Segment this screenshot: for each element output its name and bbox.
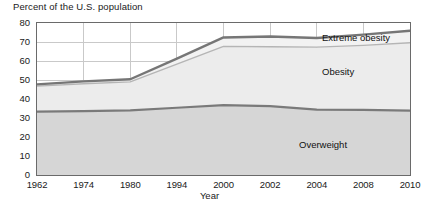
x-axis-tick-2010: 2010 xyxy=(388,179,425,190)
x-axis-tick-2004: 2004 xyxy=(295,179,339,190)
y-axis-tick-80: 80 xyxy=(0,18,30,28)
y-axis-tick-30: 30 xyxy=(0,113,30,123)
x-axis-tick-1962: 1962 xyxy=(15,179,59,190)
y-axis-tick-10: 10 xyxy=(0,151,30,161)
x-axis-tick-2000: 2000 xyxy=(202,179,246,190)
page-title: Percent of the U.S. population xyxy=(13,1,143,12)
series-area-fills xyxy=(37,31,410,175)
band-label-obesity: Obesity xyxy=(322,66,354,77)
area-obesity xyxy=(37,43,410,112)
y-axis-tick-60: 60 xyxy=(0,56,30,66)
y-axis-tick-50: 50 xyxy=(0,75,30,85)
area-overweight xyxy=(37,105,410,175)
band-label-overweight: Overweight xyxy=(299,139,347,150)
band-label-extreme-obesity: Extreme obesity xyxy=(322,32,390,43)
y-axis-tick-70: 70 xyxy=(0,37,30,47)
x-axis-tick-2002: 2002 xyxy=(248,179,292,190)
x-axis-tick-1994: 1994 xyxy=(155,179,199,190)
stacked-area-plot xyxy=(37,23,410,175)
x-axis-tick-1974: 1974 xyxy=(62,179,106,190)
y-axis-tick-40: 40 xyxy=(0,94,30,104)
x-axis-tick-1980: 1980 xyxy=(108,179,152,190)
x-axis-label: Year xyxy=(0,190,419,201)
y-axis-tick-20: 20 xyxy=(0,132,30,142)
x-axis-tick-2008: 2008 xyxy=(341,179,385,190)
plot-area xyxy=(36,22,411,176)
